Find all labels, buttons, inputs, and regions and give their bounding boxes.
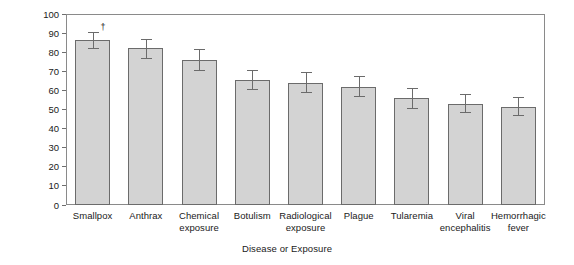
bar xyxy=(128,48,163,205)
y-axis-tick-label: 60 xyxy=(48,84,59,97)
error-bar-line xyxy=(146,39,147,58)
error-bar-cap-upper xyxy=(460,94,471,95)
error-bar-cap-lower xyxy=(354,96,365,97)
error-bar-cap-lower xyxy=(141,58,152,59)
error-bar-line xyxy=(199,49,200,70)
y-axis-tick-mark xyxy=(62,52,66,53)
y-axis-tick-mark xyxy=(62,33,66,34)
y-axis-tick-label: 20 xyxy=(48,160,59,173)
y-axis-tick-label: 40 xyxy=(48,122,59,135)
y-axis-tick-mark xyxy=(62,205,66,206)
plot-area: 0102030405060708090100 † xyxy=(66,14,545,205)
y-axis-tick-label: 80 xyxy=(48,46,59,59)
error-bar-cap-upper xyxy=(513,97,524,98)
error-bar-cap-upper xyxy=(141,39,152,40)
error-bar-cap-lower xyxy=(247,89,258,90)
error-bar-cap-lower xyxy=(88,48,99,49)
y-axis-tick-mark xyxy=(62,185,66,186)
error-bar-line xyxy=(93,32,94,48)
y-axis-tick-mark xyxy=(62,14,66,15)
y-axis-tick-mark xyxy=(62,71,66,72)
dagger-annotation-icon: † xyxy=(101,23,106,32)
bar xyxy=(235,80,270,205)
error-bar-cap-upper xyxy=(88,32,99,33)
error-bar-cap-upper xyxy=(354,76,365,77)
y-axis-tick-mark xyxy=(62,90,66,91)
error-bar-cap-lower xyxy=(301,92,312,93)
bar xyxy=(501,107,536,205)
y-axis-tick-mark xyxy=(62,147,66,148)
y-axis-tick-mark xyxy=(62,128,66,129)
error-bar-cap-lower xyxy=(194,70,205,71)
bar xyxy=(75,40,110,205)
y-axis-tick-label: 10 xyxy=(48,179,59,192)
error-bar-line xyxy=(252,70,253,89)
bar xyxy=(182,60,217,205)
error-bar-cap-upper xyxy=(194,49,205,50)
error-bar-cap-upper xyxy=(407,88,418,89)
y-axis-tick-label: 30 xyxy=(48,141,59,154)
bar xyxy=(288,83,323,205)
y-axis-tick-label: 100 xyxy=(43,8,59,21)
bar-chart-figure: Percentage 0102030405060708090100 † Smal… xyxy=(0,0,574,265)
error-bar-line xyxy=(465,94,466,112)
error-bar-cap-upper xyxy=(301,72,312,73)
error-bar-line xyxy=(359,76,360,96)
error-bar-cap-lower xyxy=(460,112,471,113)
bar xyxy=(394,98,429,205)
x-axis-category-label: Hemorrhagic fever xyxy=(486,210,551,233)
y-axis-tick-mark xyxy=(62,109,66,110)
error-bar-cap-lower xyxy=(513,115,524,116)
y-axis-tick-label: 0 xyxy=(54,199,59,212)
x-axis-title: Disease or Exposure xyxy=(0,243,574,254)
error-bar-line xyxy=(518,97,519,115)
y-axis-tick-label: 70 xyxy=(48,65,59,78)
bar xyxy=(448,104,483,205)
error-bar-line xyxy=(412,88,413,107)
error-bar-line xyxy=(306,72,307,92)
y-axis-tick-label: 50 xyxy=(48,103,59,116)
bar xyxy=(341,87,376,205)
error-bar-cap-upper xyxy=(247,70,258,71)
y-axis-tick-mark xyxy=(62,166,66,167)
error-bar-cap-lower xyxy=(407,108,418,109)
y-axis-tick-label: 90 xyxy=(48,27,59,40)
